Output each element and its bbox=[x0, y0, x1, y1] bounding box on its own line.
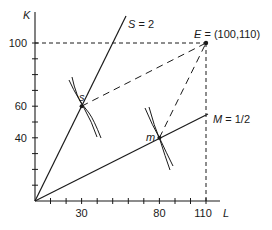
label-M-ray: M = 1/2 bbox=[213, 113, 250, 125]
label-S-ray: S = 2 bbox=[128, 18, 154, 30]
label-S-value: = 2 bbox=[135, 18, 154, 30]
label-s: s bbox=[79, 91, 85, 103]
ray-S-equals-2 bbox=[35, 16, 126, 201]
label-E-value: = (100,110) bbox=[201, 28, 260, 40]
ray-M-equals-half bbox=[35, 114, 208, 201]
dashed-guides bbox=[35, 43, 206, 201]
x-tick-80: 80 bbox=[153, 207, 165, 219]
label-E: E = (100,110) bbox=[194, 28, 260, 40]
point-m bbox=[157, 136, 161, 140]
x-tick-30: 30 bbox=[75, 207, 87, 219]
axes bbox=[35, 12, 220, 201]
indifference-curves-s bbox=[69, 77, 101, 138]
edgeworth-diagram: K L 100 60 40 30 80 110 s m E = (100,110… bbox=[0, 0, 272, 230]
y-tick-100: 100 bbox=[9, 37, 27, 49]
point-s bbox=[80, 104, 84, 108]
label-m: m bbox=[146, 131, 155, 143]
y-tick-60: 60 bbox=[15, 100, 27, 112]
label-M-value: = 1/2 bbox=[222, 113, 250, 125]
y-tick-40: 40 bbox=[15, 132, 27, 144]
x-axis-label: L bbox=[223, 207, 229, 219]
y-axis-label: K bbox=[23, 9, 31, 21]
dashed-s-to-E bbox=[82, 43, 206, 106]
x-tick-110: 110 bbox=[194, 207, 212, 219]
point-E bbox=[204, 41, 208, 45]
dashed-m-to-E bbox=[159, 43, 206, 138]
